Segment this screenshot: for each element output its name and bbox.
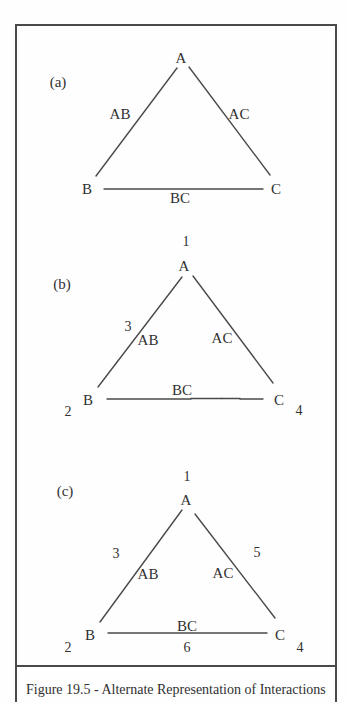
vertex-a-label: A	[179, 259, 190, 274]
panel-tag: (c)	[57, 484, 74, 499]
vertex-a-label: A	[176, 51, 187, 66]
vertex-b-label: B	[83, 393, 93, 408]
edge-ab-label: AB	[110, 107, 131, 122]
vertex-c-label: C	[275, 628, 285, 643]
number-bc: 6	[184, 641, 191, 655]
panel-tag: (b)	[53, 277, 71, 292]
edge-bc-label: BC	[170, 191, 190, 206]
vertex-a-label: A	[181, 493, 192, 508]
edge-ac-label: AC	[212, 331, 233, 346]
edge-ab-label: AB	[138, 567, 159, 582]
vertex-c-label: C	[271, 182, 281, 197]
vertex-c-label: C	[274, 393, 284, 408]
number-ab: 3	[113, 547, 120, 561]
edge-bc-label: BC	[177, 619, 197, 634]
number-top: 1	[184, 470, 191, 484]
caption-divider-line	[15, 665, 337, 667]
figure-frame	[15, 24, 337, 702]
vertex-b-label: B	[85, 628, 95, 643]
number-top: 1	[183, 235, 190, 249]
number-left: 2	[65, 405, 72, 419]
number-right: 4	[296, 404, 303, 418]
number-left: 2	[65, 641, 72, 655]
panel-tag: (a)	[50, 75, 67, 90]
scanned-figure-page: (a) A B C AB AC BC 1 A (b) 3 AB AC B BC …	[0, 0, 347, 702]
edge-ac-label: AC	[229, 107, 250, 122]
figure-caption: Figure 19.5 - Alternate Representation o…	[26, 682, 326, 697]
number-ac: 5	[254, 546, 261, 560]
edge-bc-label: BC	[172, 383, 192, 398]
number-right: 4	[297, 641, 304, 655]
edge-ac-label: AC	[213, 566, 234, 581]
edge-ab-label: AB	[138, 333, 159, 348]
vertex-b-label: B	[82, 182, 92, 197]
number-ab: 3	[125, 320, 132, 334]
